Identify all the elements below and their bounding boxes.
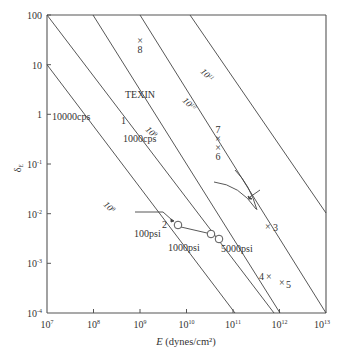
reference-lines — [47, 15, 326, 313]
x-tick-label: 107 — [41, 319, 54, 330]
x-tick-label: 109 — [134, 319, 147, 330]
line-1e9 — [93, 15, 280, 313]
point-label-8: 8 — [138, 44, 143, 55]
x-tick-label: 1012 — [272, 319, 288, 330]
point-label-4: 4 — [259, 271, 264, 282]
label-1000cps: 1000cps — [123, 133, 156, 144]
point-label-3: 3 — [273, 222, 278, 233]
line-1000cps — [47, 15, 274, 313]
x-axis-ticks — [94, 309, 280, 313]
y-tick-labels: 100 10 1 10-1 10-2 10-3 10-4 — [27, 10, 42, 319]
point-label-5: 5 — [286, 279, 291, 290]
label-1e11: 1011 — [199, 66, 216, 83]
y-tick-label: 100 — [27, 10, 42, 21]
x-tick-label: 1011 — [225, 319, 241, 330]
chart-canvas: 100 10 1 10-1 10-2 10-3 10-4 107 108 109… — [0, 0, 337, 351]
label-1000psi: 1000psi — [168, 242, 200, 253]
x-tick-label: 1013 — [314, 319, 330, 330]
annotations: 10000cps 1000cps TEXIN 1 100psi 1000psi … — [52, 89, 253, 254]
y-tick-label: 10-3 — [27, 258, 42, 269]
x-axis-title: E (dynes/cm²) — [155, 336, 216, 348]
line-labels: 108 109 1010 1011 — [102, 66, 216, 215]
label-1e8: 108 — [102, 199, 118, 215]
x-marker-4: × — [266, 271, 272, 282]
label-100psi: 100psi — [134, 228, 161, 239]
line-1e10 — [140, 15, 326, 313]
x-marker-3: × — [265, 221, 271, 232]
y-tick-label: 1 — [37, 109, 42, 120]
label-1e10: 1010 — [181, 95, 199, 113]
y-axis-title: δE — [12, 163, 24, 172]
y-tick-label: 10-2 — [27, 209, 42, 220]
line-10000cps — [47, 65, 235, 313]
range-curves — [214, 170, 260, 210]
point-3: × 3 — [265, 221, 278, 233]
line-1e11 — [190, 15, 326, 213]
point-7-6: 7 × × 6 — [215, 124, 221, 162]
svg-text:δE: δE — [12, 163, 24, 172]
point-label-2: 2 — [162, 219, 167, 230]
point-label-6: 6 — [216, 151, 221, 162]
x-marker-5: × — [279, 277, 285, 288]
label-5000psi: 5000psi — [221, 243, 253, 254]
point-8: × 8 — [137, 35, 143, 55]
y-axis-ticks — [47, 15, 51, 263]
x-tick-label: 1010 — [179, 319, 195, 330]
y-tick-label: 10 — [32, 60, 42, 71]
y-tick-label: 10-4 — [27, 308, 42, 319]
x-tick-label: 108 — [87, 319, 100, 330]
label-10000cps: 10000cps — [52, 111, 90, 122]
point-label-1: 1 — [121, 115, 126, 126]
label-texin: TEXIN — [125, 89, 155, 100]
x-tick-labels: 107 108 109 1010 1011 1012 1013 — [41, 319, 331, 330]
y-tick-label: 10-1 — [27, 159, 42, 170]
